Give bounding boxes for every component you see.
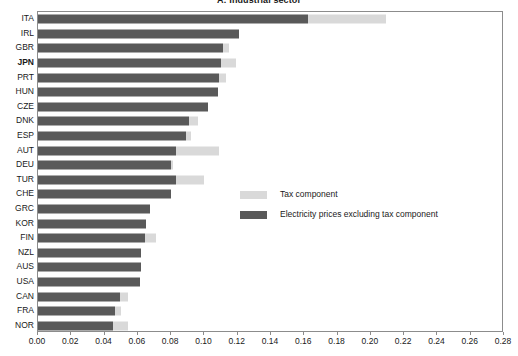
bar-row <box>38 56 502 71</box>
y-axis-label-kor: KOR <box>0 218 34 228</box>
bar-segment-tax <box>113 321 128 330</box>
x-axis-tick-label: 0.10 <box>195 336 212 347</box>
bar-segment-tax <box>223 44 230 53</box>
x-axis-tick-mark <box>104 332 105 335</box>
x-axis-tick-label: 0.18 <box>328 336 345 347</box>
bar-segment-excluding-tax <box>38 161 171 170</box>
bar-row <box>38 158 502 173</box>
x-axis-tick-mark <box>237 332 238 335</box>
bar-row <box>38 12 502 27</box>
x-axis-tick-mark <box>403 332 404 335</box>
x-axis-tick-label: 0.04 <box>95 336 112 347</box>
bar-row <box>38 129 502 144</box>
bar-row <box>38 100 502 115</box>
bar-row <box>38 143 502 158</box>
x-axis-tick-mark <box>70 332 71 335</box>
bar-segment-excluding-tax <box>38 117 189 126</box>
x-axis-tick-label: 0.26 <box>461 336 478 347</box>
y-axis-label-irl: IRL <box>0 28 34 38</box>
chart-container: A: Industrial sector ITAIRLGBRJPNPRTHUNC… <box>0 0 518 356</box>
bar-segment-excluding-tax <box>38 277 140 286</box>
bar-segment-tax <box>189 117 197 126</box>
y-axis-label-fra: FRA <box>0 305 34 315</box>
y-axis-label-prt: PRT <box>0 72 34 82</box>
bar-row <box>38 260 502 275</box>
bar-row <box>38 85 502 100</box>
y-axis-labels: ITAIRLGBRJPNPRTHUNCZEDNKESPAUTDEUTURCHEG… <box>0 11 34 332</box>
bar-segment-tax <box>171 161 173 170</box>
x-axis-tick-mark <box>303 332 304 335</box>
x-axis-tick-mark <box>203 332 204 335</box>
x-axis-tick-label: 0.22 <box>395 336 412 347</box>
y-axis-label-nor: NOR <box>0 320 34 330</box>
legend-label-excluding-tax: Electricity prices excluding tax compone… <box>280 207 438 221</box>
bars-layer <box>38 12 502 331</box>
bar-row <box>38 114 502 129</box>
bar-segment-excluding-tax <box>38 292 120 301</box>
x-axis-tick-mark <box>170 332 171 335</box>
bar-segment-tax <box>115 307 122 316</box>
bar-segment-tax <box>219 73 226 82</box>
legend-swatch-tax-icon <box>240 191 267 199</box>
bar-segment-excluding-tax <box>38 234 145 243</box>
plot-area <box>37 11 503 332</box>
x-axis-tick-mark <box>436 332 437 335</box>
y-axis-label-can: CAN <box>0 291 34 301</box>
bar-row <box>38 231 502 246</box>
bar-row <box>38 289 502 304</box>
x-axis-tick-mark <box>137 332 138 335</box>
x-axis-tick-mark <box>470 332 471 335</box>
x-axis: 0.000.020.040.060.080.100.120.140.160.18… <box>37 332 503 354</box>
bar-segment-excluding-tax <box>38 44 223 53</box>
x-axis-tick-label: 0.24 <box>428 336 445 347</box>
y-axis-label-jpn: JPN <box>0 57 34 67</box>
y-axis-label-che: CHE <box>0 188 34 198</box>
x-axis-tick-label: 0.28 <box>495 336 512 347</box>
bar-segment-excluding-tax <box>38 59 221 68</box>
x-axis-tick-mark <box>270 332 271 335</box>
y-axis-label-tur: TUR <box>0 174 34 184</box>
bar-segment-excluding-tax <box>38 204 150 213</box>
y-axis-label-usa: USA <box>0 276 34 286</box>
x-axis-tick-label: 0.12 <box>228 336 245 347</box>
y-axis-label-aus: AUS <box>0 261 34 271</box>
bar-segment-excluding-tax <box>38 263 141 272</box>
bar-segment-excluding-tax <box>38 29 239 38</box>
bar-segment-tax <box>145 234 157 243</box>
y-axis-label-grc: GRC <box>0 203 34 213</box>
y-axis-label-nzl: NZL <box>0 247 34 257</box>
legend-label-tax: Tax component <box>280 187 338 201</box>
y-axis-label-ita: ITA <box>0 13 34 23</box>
legend-swatch-excluding-tax-icon <box>240 211 267 219</box>
bar-row <box>38 70 502 85</box>
x-axis-tick-label: 0.00 <box>29 336 46 347</box>
bar-segment-excluding-tax <box>38 175 176 184</box>
y-axis-label-gbr: GBR <box>0 42 34 52</box>
bar-row <box>38 318 502 333</box>
x-axis-tick-mark <box>503 332 504 335</box>
bar-segment-excluding-tax <box>38 132 186 141</box>
x-axis-tick-mark <box>337 332 338 335</box>
x-axis-tick-mark <box>37 332 38 335</box>
bar-segment-tax <box>120 292 128 301</box>
bar-segment-excluding-tax <box>38 219 146 228</box>
y-axis-label-esp: ESP <box>0 130 34 140</box>
legend-item-excluding-tax: Electricity prices excluding tax compone… <box>240 206 470 226</box>
chart-legend: Tax component Electricity prices excludi… <box>240 186 470 226</box>
bar-segment-tax <box>308 15 386 24</box>
bar-segment-excluding-tax <box>38 248 141 257</box>
y-axis-label-dnk: DNK <box>0 115 34 125</box>
y-axis-label-aut: AUT <box>0 145 34 155</box>
bar-segment-tax <box>186 132 191 141</box>
chart-title: A: Industrial sector <box>0 0 518 5</box>
x-axis-tick-label: 0.06 <box>129 336 146 347</box>
x-axis-tick-label: 0.16 <box>295 336 312 347</box>
bar-segment-excluding-tax <box>38 146 176 155</box>
bar-segment-excluding-tax <box>38 102 208 111</box>
bar-row <box>38 41 502 56</box>
y-axis-label-cze: CZE <box>0 101 34 111</box>
bar-row <box>38 304 502 319</box>
y-axis-label-deu: DEU <box>0 159 34 169</box>
bar-segment-excluding-tax <box>38 321 113 330</box>
bar-segment-excluding-tax <box>38 190 171 199</box>
